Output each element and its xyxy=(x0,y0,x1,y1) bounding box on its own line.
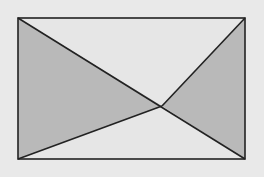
geometry-figure xyxy=(0,0,264,177)
